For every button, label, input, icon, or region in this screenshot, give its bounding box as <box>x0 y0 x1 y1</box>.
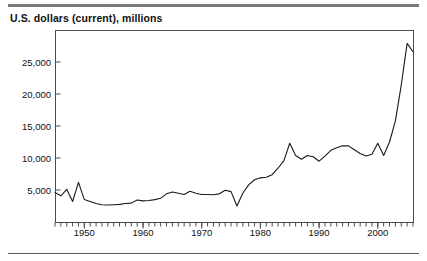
x-axis-tick-label: 1990 <box>309 227 330 238</box>
x-axis-tick-labels: 195019601970198019902000 <box>0 0 427 261</box>
x-axis-tick-label: 1970 <box>191 227 212 238</box>
x-axis-tick-label: 1960 <box>132 227 153 238</box>
chart-figure: U.S. dollars (current), millions 5,00010… <box>0 0 427 261</box>
x-axis-tick-label: 1980 <box>250 227 271 238</box>
x-axis-tick-label: 2000 <box>367 227 388 238</box>
bottom-divider-rule <box>8 253 419 254</box>
x-axis-tick-label: 1950 <box>74 227 95 238</box>
